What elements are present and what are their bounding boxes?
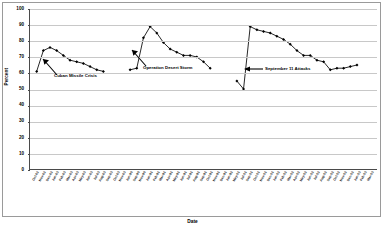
- x-tick-label: Mar-03: [367, 171, 375, 182]
- gridline: [30, 25, 377, 26]
- gridline: [30, 57, 377, 58]
- y-tick-mark: [28, 25, 30, 26]
- data-point-marker: [175, 51, 178, 54]
- y-tick-mark: [28, 138, 30, 139]
- gridline: [30, 106, 377, 107]
- gridline: [30, 90, 377, 91]
- data-point-marker: [269, 32, 272, 35]
- gridline: [30, 9, 377, 10]
- y-tick-label: 80: [19, 39, 24, 44]
- y-tick-mark: [28, 57, 30, 58]
- gridline: [30, 122, 377, 123]
- data-point-marker: [349, 65, 352, 68]
- data-point-marker: [342, 67, 345, 70]
- x-axis-title: Date: [0, 219, 385, 224]
- x-axis-tick-labels: Oct-62Nov-62Dec-62Jan-63Feb-63Mar-63Apr-…: [29, 170, 377, 216]
- gridline: [30, 154, 377, 155]
- y-tick-label: 10: [19, 152, 24, 157]
- y-tick-label: 70: [19, 55, 24, 60]
- gridline: [30, 138, 377, 139]
- y-tick-label: 20: [19, 136, 24, 141]
- y-tick-mark: [28, 41, 30, 42]
- annotation-arrow-september-11-attacks: [243, 65, 265, 73]
- data-point-marker: [95, 68, 98, 71]
- y-axis-tick-labels: 1009080706050403020100: [8, 0, 24, 231]
- y-tick-mark: [28, 122, 30, 123]
- chart-container: Percent 1009080706050403020100 Oct-62Nov…: [0, 0, 385, 231]
- y-tick-label: 100: [16, 7, 24, 12]
- data-point-marker: [82, 62, 85, 65]
- annotation-operation-desert-storm: Operation Desert Storm: [143, 66, 193, 70]
- plot-area: [29, 9, 377, 170]
- y-tick-mark: [28, 106, 30, 107]
- data-point-marker: [89, 65, 92, 68]
- data-point-marker: [129, 68, 132, 71]
- y-tick-mark: [28, 154, 30, 155]
- annotation-arrow-operation-desert-storm: [130, 48, 148, 68]
- data-point-marker: [262, 30, 265, 33]
- data-point-marker: [75, 60, 78, 63]
- y-tick-label: 40: [19, 103, 24, 108]
- y-tick-label: 60: [19, 71, 24, 76]
- y-tick-mark: [28, 73, 30, 74]
- y-tick-label: 30: [19, 119, 24, 124]
- y-tick-mark: [28, 90, 30, 91]
- data-point-marker: [49, 46, 52, 49]
- data-point-marker: [42, 49, 45, 52]
- annotation-cuban-missile-crisis: Cuban Missile Crisis: [54, 74, 97, 78]
- gridline: [30, 41, 377, 42]
- data-point-marker: [255, 28, 258, 31]
- y-tick-label: 50: [19, 87, 24, 92]
- data-point-marker: [275, 35, 278, 38]
- y-tick-mark: [28, 9, 30, 10]
- y-tick-label: 90: [19, 23, 24, 28]
- annotation-september-11-attacks: September 11 Attacks: [265, 67, 310, 71]
- data-point-marker: [355, 64, 358, 67]
- data-point-marker: [335, 67, 338, 70]
- y-tick-label: 0: [21, 168, 24, 173]
- annotation-arrow-cuban-missile-crisis: [41, 57, 59, 77]
